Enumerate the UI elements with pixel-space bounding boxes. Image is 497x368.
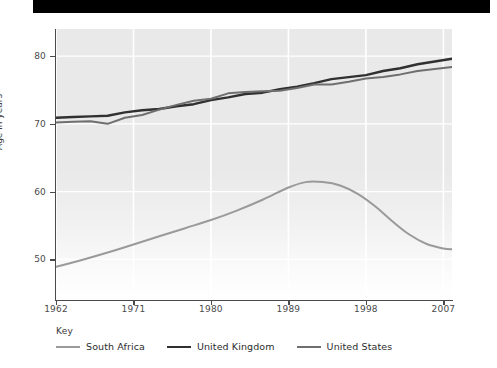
x-axis-tick-mark: [56, 300, 57, 305]
x-axis-tick-label: 1998: [343, 304, 389, 314]
legend-item[interactable]: South Africa: [56, 341, 145, 352]
legend-label: United States: [327, 341, 393, 352]
legend-item[interactable]: United States: [297, 341, 393, 352]
x-axis-tick-label: 1980: [188, 304, 234, 314]
x-axis-tick-mark: [366, 300, 367, 305]
plot-area: [56, 29, 452, 300]
x-axis-tick-label: 1962: [33, 304, 79, 314]
y-axis-tick-mark: [50, 56, 56, 57]
y-axis-title: Age in years: [0, 94, 4, 150]
series-line: [56, 182, 452, 267]
y-axis-tick-mark: [50, 124, 56, 125]
x-axis-tick-mark: [443, 300, 444, 305]
legend-color-swatch: [56, 346, 80, 348]
x-axis-tick-label: 1971: [110, 304, 156, 314]
legend-title: Key: [56, 326, 476, 336]
x-axis-tick-mark: [288, 300, 289, 305]
legend-items: South AfricaUnited KingdomUnited States: [56, 341, 476, 352]
x-axis-tick-label: 2007: [420, 304, 466, 314]
line-chart-figure: 50607080 196219711980198919982007 Age in…: [0, 0, 497, 368]
x-axis-line: [55, 300, 453, 301]
legend-label: South Africa: [86, 341, 145, 352]
chart-legend: Key South AfricaUnited KingdomUnited Sta…: [56, 326, 476, 352]
series-line: [56, 59, 452, 118]
legend-color-swatch: [167, 346, 191, 348]
x-axis-tick-mark: [133, 300, 134, 305]
legend-color-swatch: [297, 346, 321, 348]
legend-label: United Kingdom: [197, 341, 275, 352]
y-axis-tick-mark: [50, 192, 56, 193]
x-axis-tick-label: 1989: [265, 304, 311, 314]
data-series-layer: [56, 29, 452, 300]
y-axis-tick-label: 60: [18, 187, 46, 197]
x-axis-tick-mark: [211, 300, 212, 305]
y-axis-tick-mark: [50, 259, 56, 260]
y-axis-tick-label: 70: [18, 119, 46, 129]
y-axis-tick-label: 80: [18, 51, 46, 61]
legend-item[interactable]: United Kingdom: [167, 341, 275, 352]
y-axis-tick-label: 50: [18, 254, 46, 264]
